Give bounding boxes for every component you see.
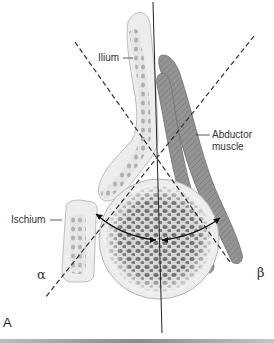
abductor-label-line2: muscle [212, 141, 244, 152]
panel-label: A [3, 315, 12, 330]
ischium-label: Ischium [11, 214, 45, 225]
abductor-label-line1: Abductor [212, 129, 252, 140]
hip-diagram [0, 0, 274, 343]
alpha-label: α [37, 267, 46, 282]
ilium-label: Ilium [98, 52, 119, 63]
bottom-border [0, 339, 274, 343]
ilium-bone [99, 12, 159, 200]
beta-label: β [257, 265, 265, 280]
